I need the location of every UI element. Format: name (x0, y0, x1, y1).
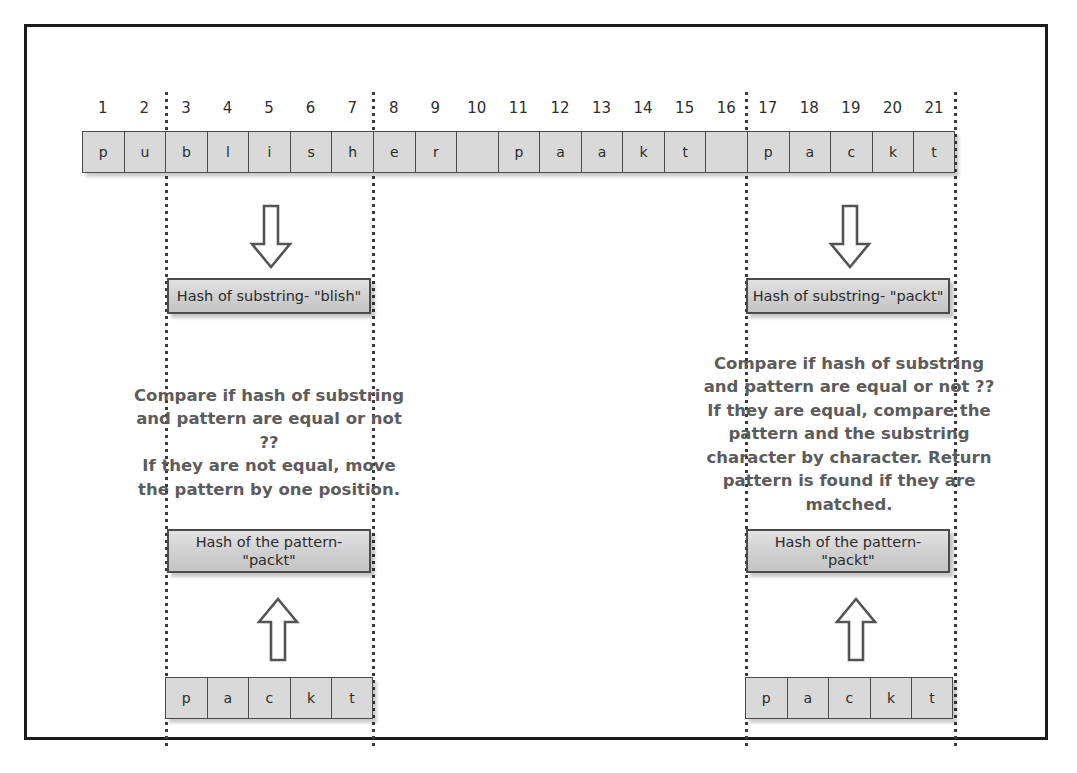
right-note-line-1: Compare if hash of substring (675, 352, 1023, 375)
hash-of-substring-label-left: Hash of substring- "blish" (177, 287, 362, 305)
index-label-5: 5 (248, 99, 290, 123)
index-label-10: 10 (456, 99, 498, 123)
text-cell-6: s (290, 131, 332, 173)
down-arrow-right (827, 204, 873, 270)
text-cell-5: i (248, 131, 290, 173)
text-cell-14: k (622, 131, 664, 173)
right-note-line-4: pattern and the substring (675, 422, 1023, 445)
right-note-line-5: character by character. Return (675, 446, 1023, 469)
text-cell-18: a (789, 131, 831, 173)
text-cell-11: p (498, 131, 540, 173)
hash-of-pattern-line-1-left: Hash of the pattern- (196, 533, 343, 551)
text-cell-4: l (207, 131, 249, 173)
text-cell-2: u (124, 131, 166, 173)
index-label-1: 1 (82, 99, 124, 123)
index-label-14: 14 (622, 99, 664, 123)
up-arrow-right (833, 596, 879, 662)
pattern-strip-right-cell-4: k (870, 677, 912, 719)
pattern-strip-left: packt (165, 677, 373, 719)
index-label-21: 21 (913, 99, 955, 123)
text-cell-15: t (664, 131, 706, 173)
text-cell-10 (456, 131, 498, 173)
left-note-line-2: and pattern are equal or not ?? (128, 407, 410, 454)
up-arrow-left (255, 596, 301, 662)
pattern-strip-right-cell-2: a (787, 677, 829, 719)
text-cell-9: r (415, 131, 457, 173)
down-arrow-left (248, 204, 294, 270)
index-label-19: 19 (830, 99, 872, 123)
hash-of-pattern-box-left: Hash of the pattern- "packt" (167, 529, 371, 573)
index-row: 123456789101112131415161718192021 (82, 99, 955, 123)
hash-of-pattern-line-2-right: "packt" (821, 551, 874, 569)
hash-of-pattern-line-2-left: "packt" (242, 551, 295, 569)
left-note-line-3: If they are not equal, move (128, 454, 410, 477)
right-note-line-2: and pattern are equal or not ?? (675, 375, 1023, 398)
text-cell-12: a (539, 131, 581, 173)
hash-of-substring-label-right: Hash of substring- "packt" (753, 287, 944, 305)
text-cell-1: p (82, 131, 124, 173)
text-cell-3: b (165, 131, 207, 173)
pattern-strip-left-cell-2: a (207, 677, 249, 719)
pattern-strip-left-cell-3: c (248, 677, 290, 719)
right-note-line-6: pattern is found if they are (675, 469, 1023, 492)
pattern-strip-right-cell-1: p (745, 677, 787, 719)
text-cell-21: t (913, 131, 955, 173)
pattern-strip-right-cell-3: c (828, 677, 870, 719)
text-cell-16 (705, 131, 747, 173)
index-label-15: 15 (664, 99, 706, 123)
text-cell-19: c (830, 131, 872, 173)
index-label-9: 9 (415, 99, 457, 123)
text-cell-7: h (331, 131, 373, 173)
text-cell-8: e (373, 131, 415, 173)
pattern-strip-right: packt (745, 677, 953, 719)
index-label-8: 8 (373, 99, 415, 123)
hash-of-pattern-line-1-right: Hash of the pattern- (775, 533, 922, 551)
hash-of-pattern-box-right: Hash of the pattern- "packt" (746, 529, 950, 573)
text-cell-17: p (747, 131, 789, 173)
left-note-line-4: the pattern by one position. (128, 478, 410, 501)
right-note-line-3: If they are equal, compare the (675, 399, 1023, 422)
index-label-17: 17 (747, 99, 789, 123)
index-label-6: 6 (290, 99, 332, 123)
index-label-3: 3 (165, 99, 207, 123)
right-note-line-7: matched. (675, 493, 1023, 516)
index-label-7: 7 (331, 99, 373, 123)
index-label-16: 16 (705, 99, 747, 123)
index-label-4: 4 (207, 99, 249, 123)
text-strip: publisherpaaktpackt (82, 131, 955, 173)
index-label-13: 13 (581, 99, 623, 123)
diagram-canvas: 123456789101112131415161718192021 publis… (0, 0, 1077, 773)
index-label-18: 18 (789, 99, 831, 123)
index-label-2: 2 (124, 99, 166, 123)
right-explanation-note: Compare if hash of substring and pattern… (675, 352, 1023, 516)
index-label-11: 11 (498, 99, 540, 123)
index-label-12: 12 (539, 99, 581, 123)
left-explanation-note: Compare if hash of substring and pattern… (128, 384, 410, 501)
index-label-20: 20 (872, 99, 914, 123)
pattern-strip-left-cell-1: p (165, 677, 207, 719)
text-cell-13: a (581, 131, 623, 173)
hash-of-substring-box-right: Hash of substring- "packt" (746, 278, 950, 314)
pattern-strip-right-cell-5: t (911, 677, 953, 719)
left-note-line-1: Compare if hash of substring (128, 384, 410, 407)
text-cell-20: k (872, 131, 914, 173)
pattern-strip-left-cell-4: k (290, 677, 332, 719)
hash-of-substring-box-left: Hash of substring- "blish" (167, 278, 371, 314)
pattern-strip-left-cell-5: t (331, 677, 373, 719)
